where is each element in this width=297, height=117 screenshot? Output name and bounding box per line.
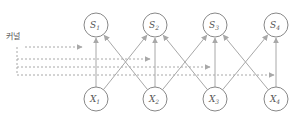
node-S1: S1 (84, 13, 108, 37)
node-X1: X1 (84, 87, 108, 111)
node-X3: X3 (203, 87, 227, 111)
node-X2: X2 (143, 87, 167, 111)
node-S4: S4 (264, 13, 288, 37)
node-X4: X4 (264, 87, 288, 111)
convolution-diagram: S1S2S3S4X1X2X3X4 (0, 0, 297, 117)
node-S3: S3 (203, 13, 227, 37)
node-S2: S2 (143, 13, 167, 37)
